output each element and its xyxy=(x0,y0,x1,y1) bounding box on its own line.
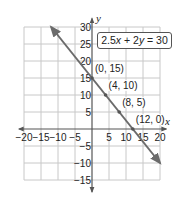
svg-text:(8, 5): (8, 5) xyxy=(122,97,145,108)
svg-text:−10: −10 xyxy=(74,158,91,169)
svg-text:10: 10 xyxy=(80,90,92,101)
svg-text:25: 25 xyxy=(80,39,92,50)
svg-text:(12, 0): (12, 0) xyxy=(136,114,165,125)
plotted-points: (0, 15)(4, 10)(8, 5)(12, 0) xyxy=(90,63,165,131)
svg-text:(0, 15): (0, 15) xyxy=(95,63,124,74)
equation-label-box: 2.5x + 2y = 30 xyxy=(97,32,172,49)
svg-text:y: y xyxy=(95,12,101,24)
svg-text:−20: −20 xyxy=(16,132,33,143)
svg-text:x: x xyxy=(164,115,170,127)
svg-text:−10: −10 xyxy=(50,132,67,143)
svg-text:20: 20 xyxy=(154,132,166,143)
svg-text:5: 5 xyxy=(85,107,91,118)
svg-text:−5: −5 xyxy=(80,141,92,152)
equation-label: 2.5x + 2y = 30 xyxy=(101,34,168,46)
svg-text:−15: −15 xyxy=(74,175,91,186)
coordinate-graph: xy −20−15−10−5510152030252015105−5−10−15… xyxy=(0,0,181,205)
svg-text:5: 5 xyxy=(106,132,112,143)
svg-text:(4, 10): (4, 10) xyxy=(109,80,138,91)
svg-text:10: 10 xyxy=(120,132,132,143)
svg-text:30: 30 xyxy=(80,22,92,33)
svg-text:−15: −15 xyxy=(33,132,50,143)
